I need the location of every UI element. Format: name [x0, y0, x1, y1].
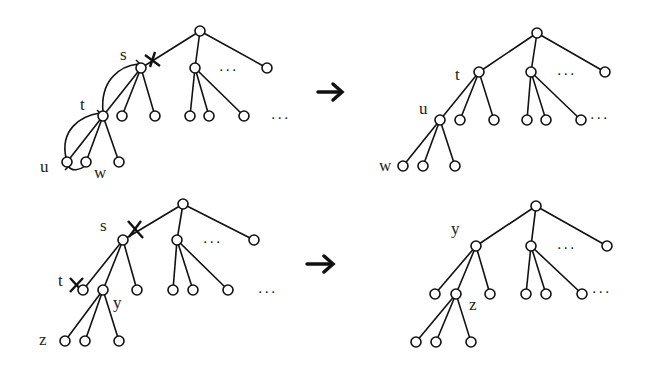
tree-node [190, 63, 200, 73]
transform-arrow-icon [307, 256, 333, 272]
curved-arrow-u-to-t [65, 113, 100, 158]
transform-arrow-icon [318, 84, 342, 100]
label-s: s [120, 45, 127, 64]
tree-node [541, 289, 551, 299]
tree-node-y [471, 241, 481, 251]
tree-node [521, 289, 531, 299]
ellipsis: ... [258, 280, 277, 296]
tree-node [485, 289, 495, 299]
tree-node [577, 289, 587, 299]
tree-node [455, 115, 465, 125]
tree-node-w [81, 157, 91, 167]
tree-node [522, 115, 532, 125]
tree-node [172, 235, 182, 245]
ellipsis: ... [557, 236, 576, 252]
label-t: t [58, 271, 63, 290]
label-z: z [469, 295, 477, 314]
tree-node [602, 241, 612, 251]
tree-node-s [136, 63, 146, 73]
label-w: w [94, 163, 107, 182]
tree-node [185, 111, 195, 121]
tree-node [168, 285, 178, 295]
panel-bottom-after: y z ... ... [411, 201, 612, 347]
tree-node [526, 241, 536, 251]
tree-node [489, 115, 499, 125]
tree-node-root [532, 28, 542, 38]
tree-node [450, 161, 460, 171]
tree-node [188, 285, 198, 295]
tree-node [431, 337, 441, 347]
tree-node-y [98, 285, 108, 295]
tree-node-root [178, 199, 188, 209]
ellipsis: ... [557, 62, 576, 78]
tree-node [204, 111, 214, 121]
ellipsis: ... [592, 280, 611, 296]
tree-node [576, 115, 586, 125]
label-w: w [379, 156, 392, 175]
tree-node [249, 235, 259, 245]
tree-node-t [474, 67, 484, 77]
tree-node [239, 111, 249, 121]
tree-node-u [435, 115, 445, 125]
ellipsis: ... [219, 58, 238, 74]
tree-node [114, 336, 124, 346]
tree-node-u [62, 157, 72, 167]
tree-node [117, 111, 127, 121]
tree-node-z [60, 336, 70, 346]
label-y: y [113, 293, 122, 312]
panel-top-before: s t u w ... ... [40, 26, 290, 182]
label-u: u [40, 157, 49, 176]
tree-node-w [398, 161, 408, 171]
tree-node [80, 336, 90, 346]
tree-node [526, 67, 536, 77]
panel-bottom-before: s t y z ... ... [39, 199, 277, 349]
label-z: z [39, 330, 47, 349]
tree-node [600, 67, 610, 77]
tree-node-root [531, 201, 541, 211]
tree-node-root [195, 26, 205, 36]
tree-node [150, 111, 160, 121]
tree-node [541, 115, 551, 125]
tree-node [223, 285, 233, 295]
tree-node [262, 63, 272, 73]
tree-node [418, 161, 428, 171]
tree-node [114, 157, 124, 167]
tree-node-s [118, 235, 128, 245]
tree-node [132, 285, 142, 295]
label-s: s [100, 216, 107, 235]
label-y: y [451, 219, 460, 238]
tree-node-t [78, 285, 88, 295]
label-t: t [455, 65, 460, 84]
ellipsis: ... [203, 230, 222, 246]
tree-node-z [451, 289, 461, 299]
tree-node-t [98, 111, 108, 121]
label-u: u [419, 99, 428, 118]
tree-node [411, 337, 421, 347]
panel-top-after: t u w ... ... [379, 28, 610, 175]
tree-node [430, 289, 440, 299]
ellipsis: ... [590, 106, 609, 122]
label-t: t [80, 95, 85, 114]
diagram-canvas: s t u w ... ... t [0, 0, 650, 370]
ellipsis: ... [271, 106, 290, 122]
tree-node [466, 337, 476, 347]
